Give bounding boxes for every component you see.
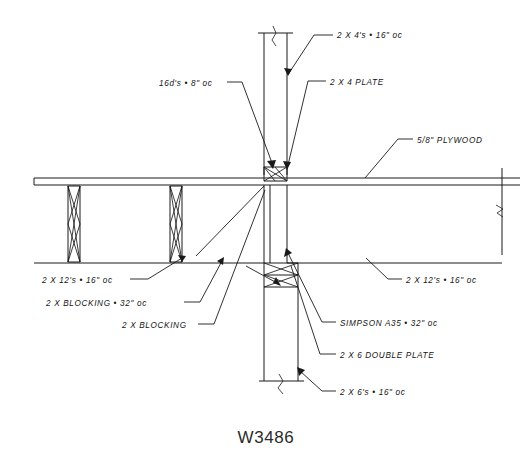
- detail-number-title: W3486: [0, 428, 532, 448]
- leader-lines: [130, 35, 413, 391]
- annotation-nails-16d: 16d's • 8" oc: [159, 80, 213, 88]
- annotation-double-plate: 2 X 6 DOUBLE PLATE: [340, 352, 434, 360]
- annotation-studs-2x6: 2 X 6's • 16" oc: [340, 389, 406, 397]
- annotation-studs-2x4: 2 X 4's • 16" oc: [337, 32, 403, 40]
- blocking-left-2: [170, 186, 182, 262]
- annotation-joists-right: 2 X 12's • 16" oc: [406, 277, 477, 285]
- annotation-blocking-32: 2 X BLOCKING • 32" oc: [46, 300, 147, 308]
- blocking-left-1: [68, 186, 80, 262]
- upper-wall-2x4: [258, 26, 293, 175]
- annotation-blocking: 2 X BLOCKING: [122, 322, 187, 330]
- annotation-plate-2x4: 2 X 4 PLATE: [330, 79, 384, 87]
- center-rim-blocking: [264, 185, 287, 263]
- lower-wall-2x6: [259, 287, 304, 394]
- right-break-line: [496, 168, 503, 255]
- annotation-joists-left: 2 X 12's • 16" oc: [42, 277, 113, 285]
- annotation-simpson-a35: SIMPSON A35 • 32" oc: [340, 320, 438, 328]
- construction-detail-drawing: [0, 0, 532, 466]
- drawing-sheet: 2 X 4's • 16" oc 2 X 4 PLATE 16d's • 8" …: [0, 0, 532, 466]
- annotation-plywood: 5/8" PLYWOOD: [417, 137, 482, 145]
- double-plate-2x6: [264, 263, 298, 287]
- plate-2x4-block: [264, 167, 287, 181]
